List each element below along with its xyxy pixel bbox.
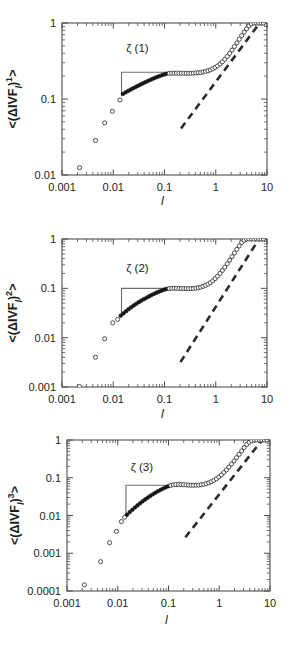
y-tick-label: 0.001 bbox=[28, 381, 56, 393]
x-tick-label: 0.1 bbox=[161, 597, 176, 609]
reference-dashed-line bbox=[181, 23, 260, 128]
data-point bbox=[110, 109, 114, 113]
data-point bbox=[77, 385, 81, 389]
exponent-annotation: ζ (3) bbox=[131, 461, 153, 473]
data-point bbox=[103, 121, 107, 125]
y-tick-label: 0.1 bbox=[46, 472, 61, 484]
x-axis-title: l bbox=[161, 194, 165, 208]
data-series bbox=[119, 287, 169, 317]
chart-panel-1: 0.0010.010.11100.010.11<(ΔIVFl)1>lζ (1) bbox=[0, 0, 290, 215]
y-tick-label: 0.001 bbox=[33, 547, 61, 559]
plot-area bbox=[82, 438, 269, 587]
chart-panel-3: 0.0010.010.11100.00010.0010.010.11<(ΔIVF… bbox=[0, 428, 290, 647]
y-axis-title: <(ΔIVFl)2> bbox=[4, 284, 24, 343]
data-series bbox=[121, 72, 169, 96]
data-series bbox=[167, 21, 265, 75]
x-tick-label: 0.1 bbox=[157, 181, 172, 193]
y-axis-ticks bbox=[67, 440, 270, 591]
x-tick-label: 10 bbox=[264, 597, 276, 609]
reference-dashed-line bbox=[180, 239, 259, 362]
plot-frame bbox=[67, 440, 270, 591]
x-axis-title: l bbox=[161, 407, 165, 421]
plot-frame bbox=[62, 239, 267, 387]
x-tick-label: 0.001 bbox=[48, 393, 76, 405]
data-point bbox=[261, 21, 265, 25]
y-tick-label: 0.01 bbox=[40, 510, 61, 522]
data-point bbox=[93, 138, 97, 142]
data-point bbox=[108, 541, 112, 545]
x-tick-labels: 0.0010.010.1110 bbox=[48, 181, 273, 193]
x-axis-title: l bbox=[165, 613, 169, 627]
y-tick-labels: 0.010.11 bbox=[35, 17, 56, 181]
y-axis-ticks bbox=[62, 239, 267, 387]
x-axis-ticks bbox=[67, 440, 270, 591]
data-series bbox=[125, 484, 170, 516]
data-point bbox=[99, 560, 103, 564]
y-tick-label: 0.01 bbox=[35, 332, 56, 344]
log-log-plot-1: 0.0010.010.11100.010.11<(ΔIVFl)1>lζ (1) bbox=[0, 0, 290, 215]
plot-area bbox=[77, 237, 265, 389]
data-series bbox=[77, 98, 121, 170]
data-point bbox=[77, 166, 81, 170]
x-tick-label: 1 bbox=[216, 597, 222, 609]
x-tick-label: 0.01 bbox=[103, 181, 124, 193]
x-tick-label: 10 bbox=[261, 393, 273, 405]
data-series bbox=[167, 237, 265, 291]
x-tick-label: 10 bbox=[261, 181, 273, 193]
y-tick-label: 1 bbox=[50, 233, 56, 245]
x-axis-ticks bbox=[62, 239, 267, 387]
x-tick-labels: 0.0010.010.1110 bbox=[53, 597, 276, 609]
data-point bbox=[114, 529, 118, 533]
x-tick-label: 0.001 bbox=[48, 181, 76, 193]
exponent-annotation: ζ (1) bbox=[126, 42, 148, 54]
y-tick-label: 0.0001 bbox=[27, 585, 61, 597]
data-point bbox=[82, 583, 86, 587]
y-tick-label: 1 bbox=[50, 17, 56, 29]
data-series bbox=[77, 317, 119, 388]
x-tick-label: 0.1 bbox=[157, 393, 172, 405]
log-log-plot-2: 0.0010.010.11100.0010.010.11<(ΔIVFl)2>lζ… bbox=[0, 215, 290, 428]
data-point bbox=[93, 355, 97, 359]
y-tick-label: 0.01 bbox=[35, 169, 56, 181]
data-point bbox=[119, 520, 123, 524]
data-point bbox=[103, 337, 107, 341]
y-tick-label: 0.1 bbox=[41, 282, 56, 294]
log-log-plot-3: 0.0010.010.11100.00010.0010.010.11<(ΔIVF… bbox=[0, 428, 290, 647]
x-tick-label: 0.01 bbox=[103, 393, 124, 405]
data-point bbox=[111, 321, 115, 325]
data-point bbox=[118, 98, 122, 102]
x-tick-label: 0.01 bbox=[107, 597, 128, 609]
x-tick-label: 0.001 bbox=[53, 597, 81, 609]
figure-root: 0.0010.010.11100.010.11<(ΔIVFl)1>lζ (1) … bbox=[0, 0, 290, 647]
y-tick-label: 0.1 bbox=[41, 93, 56, 105]
y-tick-labels: 0.0010.010.11 bbox=[28, 233, 56, 393]
data-point bbox=[265, 438, 269, 442]
x-tick-label: 1 bbox=[213, 181, 219, 193]
data-series bbox=[82, 515, 126, 587]
y-axis-title: <(ΔIVFl)3> bbox=[6, 486, 26, 545]
chart-panel-2: 0.0010.010.11100.0010.010.11<(ΔIVFl)2>lζ… bbox=[0, 215, 290, 428]
x-tick-label: 1 bbox=[213, 393, 219, 405]
y-tick-labels: 0.00010.0010.010.11 bbox=[27, 434, 61, 597]
reference-dashed-line bbox=[185, 440, 262, 537]
plot-area bbox=[77, 21, 265, 170]
y-tick-label: 1 bbox=[55, 434, 61, 446]
x-tick-labels: 0.0010.010.1110 bbox=[48, 393, 273, 405]
y-axis-title: <(ΔIVFl)1> bbox=[4, 70, 24, 129]
data-point bbox=[261, 237, 265, 241]
exponent-annotation: ζ (2) bbox=[126, 262, 148, 274]
data-point bbox=[116, 317, 120, 321]
